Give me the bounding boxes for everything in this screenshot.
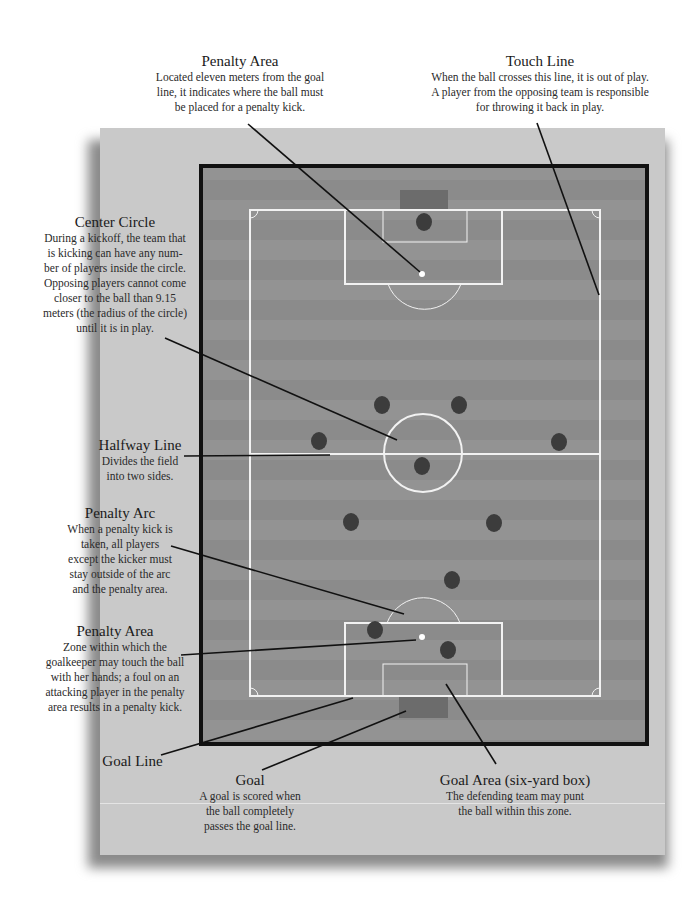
desc-line: area results in a penalty kick. bbox=[30, 700, 200, 715]
player-marker bbox=[451, 396, 467, 414]
label-goal-area: Goal Area (six-yard box) The defending t… bbox=[430, 771, 600, 819]
player-marker bbox=[367, 621, 383, 639]
desc-line: Opposing players cannot come bbox=[30, 276, 200, 291]
player-marker bbox=[486, 514, 502, 532]
label-desc: Located eleven meters from the goal line… bbox=[140, 70, 340, 115]
desc-line: passes the goal line. bbox=[185, 819, 315, 834]
label-title: Halfway Line bbox=[85, 436, 195, 454]
label-goal-line: Goal Line bbox=[95, 752, 170, 770]
goal-top bbox=[400, 190, 448, 210]
desc-line: ber of players inside the circle. bbox=[30, 261, 200, 276]
label-penalty-area-bottom: Penalty Area Zone within which the goalk… bbox=[30, 622, 200, 715]
desc-line: When the ball crosses this line, it is o… bbox=[380, 70, 700, 85]
label-desc: During a kickoff, the team that is kicki… bbox=[30, 231, 200, 336]
desc-line: attacking player in the penalty bbox=[30, 685, 200, 700]
label-desc: The defending team may punt the ball wit… bbox=[430, 789, 600, 819]
desc-line: When a penalty kick is bbox=[50, 522, 190, 537]
desc-line: meters (the radius of the circle) bbox=[30, 306, 200, 321]
desc-line: stay outside of the arc bbox=[50, 567, 190, 582]
label-title: Touch Line bbox=[380, 52, 700, 70]
player-marker bbox=[551, 433, 567, 451]
desc-line: for throwing it back in play. bbox=[380, 100, 700, 115]
label-desc: When the ball crosses this line, it is o… bbox=[380, 70, 700, 115]
label-title: Goal Line bbox=[95, 752, 170, 770]
desc-line: Located eleven meters from the goal bbox=[140, 70, 340, 85]
label-penalty-arc: Penalty Arc When a penalty kick is taken… bbox=[50, 504, 190, 597]
label-desc: Divides the field into two sides. bbox=[85, 454, 195, 484]
goal-bottom bbox=[399, 697, 448, 718]
desc-line: During a kickoff, the team that bbox=[30, 231, 200, 246]
leader-halfway-line bbox=[184, 455, 330, 456]
label-title: Center Circle bbox=[30, 213, 200, 231]
label-title: Penalty Area bbox=[140, 52, 340, 70]
label-title: Goal Area (six-yard box) bbox=[430, 771, 600, 789]
desc-line: except the kicker must bbox=[50, 552, 190, 567]
desc-line: the ball completely bbox=[185, 804, 315, 819]
desc-line: with her hands; a foul on an bbox=[30, 670, 200, 685]
desc-line: into two sides. bbox=[85, 469, 195, 484]
desc-line: Zone within which the bbox=[30, 640, 200, 655]
player-marker bbox=[343, 513, 359, 531]
desc-line: until it is in play. bbox=[30, 321, 200, 336]
desc-line: goalkeeper may touch the ball bbox=[30, 655, 200, 670]
player-marker bbox=[444, 571, 460, 589]
player-marker bbox=[414, 457, 430, 475]
desc-line: closer to the ball than 9.15 bbox=[30, 291, 200, 306]
desc-line: be placed for a penalty kick. bbox=[140, 100, 340, 115]
desc-line: the ball within this zone. bbox=[430, 804, 600, 819]
label-halfway-line: Halfway Line Divides the field into two … bbox=[85, 436, 195, 484]
player-marker bbox=[311, 432, 327, 450]
label-touch-line: Touch Line When the ball crosses this li… bbox=[380, 52, 700, 115]
desc-line: is kicking can have any num- bbox=[30, 246, 200, 261]
label-penalty-area-top: Penalty Area Located eleven meters from … bbox=[140, 52, 340, 115]
penalty-spot-ball bbox=[419, 634, 425, 640]
label-center-circle: Center Circle During a kickoff, the team… bbox=[30, 213, 200, 336]
player-marker bbox=[374, 396, 390, 414]
label-title: Goal bbox=[185, 771, 315, 789]
desc-line: taken, all players bbox=[50, 537, 190, 552]
label-goal: Goal A goal is scored when the ball comp… bbox=[185, 771, 315, 834]
label-title: Penalty Area bbox=[30, 622, 200, 640]
desc-line: line, it indicates where the ball must bbox=[140, 85, 340, 100]
label-desc: When a penalty kick is taken, all player… bbox=[50, 522, 190, 597]
desc-line: The defending team may punt bbox=[430, 789, 600, 804]
desc-line: A goal is scored when bbox=[185, 789, 315, 804]
desc-line: A player from the opposing team is respo… bbox=[380, 85, 700, 100]
desc-line: and the penalty area. bbox=[50, 582, 190, 597]
label-title: Penalty Arc bbox=[50, 504, 190, 522]
desc-line: Divides the field bbox=[85, 454, 195, 469]
player-marker bbox=[416, 213, 432, 231]
player-marker bbox=[440, 641, 456, 659]
label-desc: A goal is scored when the ball completel… bbox=[185, 789, 315, 834]
label-desc: Zone within which the goalkeeper may tou… bbox=[30, 640, 200, 715]
